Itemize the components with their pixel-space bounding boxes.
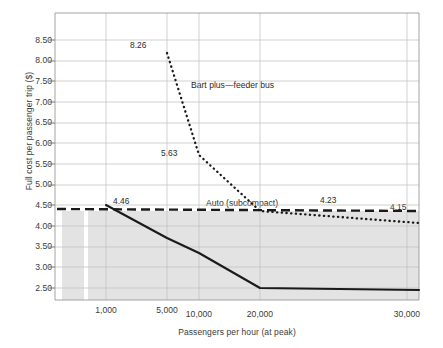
series-line-bart-feeder-bus [167,53,419,223]
chart-canvas [0,0,443,348]
series-line-auto-subcompact [57,209,419,211]
left-gray-band [62,211,84,300]
y-axis-ticks [49,40,55,288]
shaded-region-below-auto [88,211,419,300]
chart-figure: Full cost per passenger trip ($) 8.50 8.… [0,0,443,348]
